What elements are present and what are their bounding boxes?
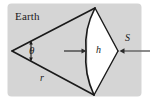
geometry-diagram-svg [0,0,150,103]
figure-container: Earth θ r h S [0,0,150,103]
